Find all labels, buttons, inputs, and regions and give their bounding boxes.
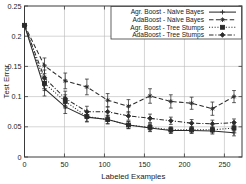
data-point bbox=[169, 118, 174, 123]
x-axis-title: Labeled Examples bbox=[101, 172, 165, 181]
data-point bbox=[210, 121, 215, 126]
data-point bbox=[105, 98, 110, 103]
x-tick-label: 100 bbox=[98, 160, 110, 169]
data-point bbox=[148, 116, 153, 121]
y-tick-label: 0 bbox=[18, 153, 22, 162]
chart-legend: Agr. Boost - Naive BayesAdaBoost - Naive… bbox=[111, 7, 242, 40]
data-point bbox=[169, 99, 174, 104]
y-axis-title: Test Error bbox=[2, 64, 11, 98]
x-tick-label: 250 bbox=[218, 160, 230, 169]
line-chart: 050100150200250 00.050.10.150.20.25 Labe… bbox=[0, 0, 246, 184]
y-tick-label: 0.05 bbox=[8, 122, 22, 131]
x-tick-label: 150 bbox=[138, 160, 150, 169]
data-point bbox=[126, 104, 131, 109]
y-tick-label: 0.2 bbox=[12, 32, 22, 41]
data-point bbox=[169, 128, 173, 132]
data-point bbox=[210, 128, 214, 132]
data-point bbox=[63, 79, 68, 84]
data-point bbox=[148, 94, 153, 99]
legend-marker bbox=[221, 25, 225, 29]
data-point bbox=[148, 125, 152, 129]
x-axis-tick-labels: 050100150200250 bbox=[23, 160, 231, 169]
chart-figure: 050100150200250 00.050.10.150.20.25 Labe… bbox=[0, 0, 246, 184]
legend-label: AdaBoost - Tree Stumps bbox=[132, 31, 205, 39]
x-tick-label: 200 bbox=[178, 160, 190, 169]
x-tick-label: 0 bbox=[23, 160, 27, 169]
series-1 bbox=[22, 23, 236, 136]
data-point bbox=[189, 101, 194, 106]
y-tick-label: 0.1 bbox=[12, 92, 22, 101]
data-point bbox=[232, 94, 237, 99]
data-point bbox=[42, 63, 47, 68]
series-layer bbox=[22, 23, 236, 136]
data-point bbox=[232, 120, 237, 125]
data-point bbox=[106, 118, 110, 122]
data-point bbox=[105, 109, 110, 114]
x-tick-label: 50 bbox=[60, 160, 68, 169]
data-point bbox=[189, 121, 194, 126]
data-point bbox=[190, 128, 194, 132]
data-point bbox=[85, 109, 90, 114]
data-point bbox=[232, 126, 236, 130]
data-point bbox=[126, 123, 130, 127]
legend-marker bbox=[220, 17, 225, 22]
data-point bbox=[85, 85, 90, 90]
data-point bbox=[210, 106, 215, 111]
data-point bbox=[126, 114, 131, 119]
y-tick-label: 0.25 bbox=[8, 2, 22, 11]
